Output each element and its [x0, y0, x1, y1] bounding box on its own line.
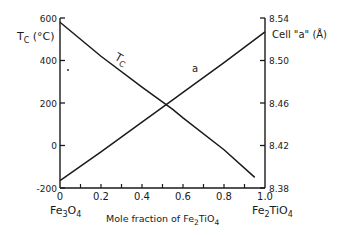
right-tick-label: 8.42: [269, 141, 289, 151]
left-tick-label: 400: [40, 56, 57, 66]
x-tick-label: 1.0: [257, 191, 273, 202]
left-tick-label: 0: [51, 141, 57, 151]
x-tick-label: 0.8: [216, 191, 232, 202]
chart: 6004002000-200 8.548.508.468.428.38 00.2…: [0, 0, 347, 235]
tc-curve: [60, 22, 255, 177]
left-axis-title: TC (°C): [16, 30, 55, 45]
stray-dot: [67, 69, 69, 71]
a-curve-label: a: [192, 63, 198, 74]
fe2tio4-label: Fe2TiO4: [252, 204, 293, 219]
left-tick-label: -200: [37, 184, 58, 194]
tc-curve-label: TC: [111, 50, 130, 70]
x-tick-label: 0.6: [175, 191, 191, 202]
left-tick-label: 200: [40, 99, 57, 109]
right-tick-label: 8.54: [269, 14, 289, 24]
x-axis-title: Mole fraction of Fe2TiO4: [106, 213, 219, 227]
right-tick-label: 8.46: [269, 99, 289, 109]
right-tick-label: 8.50: [269, 56, 289, 66]
axes: [60, 18, 265, 188]
x-tick-label: 0.2: [93, 191, 109, 202]
left-tick-label: 600: [40, 14, 57, 24]
right-axis-title: Cell "a" (Å): [272, 28, 327, 40]
fe3o4-label: Fe3O4: [50, 204, 81, 219]
x-tick-label: 0.4: [134, 191, 150, 202]
x-ticks: 00.20.40.60.81.0: [57, 184, 273, 202]
x-tick-label: 0: [57, 191, 63, 202]
